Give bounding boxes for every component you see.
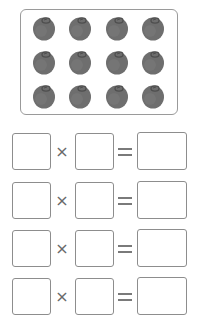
factor1-box[interactable] xyxy=(12,230,51,267)
fruit-icon xyxy=(141,83,165,109)
factor2-box[interactable] xyxy=(75,182,114,219)
fruit-icon xyxy=(141,49,165,75)
times-sign: × xyxy=(55,193,69,209)
times-sign: × xyxy=(55,144,69,160)
fruit-icon xyxy=(105,15,129,41)
factor1-box[interactable] xyxy=(12,182,51,219)
fruit-icon xyxy=(68,49,92,75)
factor2-box[interactable] xyxy=(75,133,114,170)
equals-sign xyxy=(118,293,132,301)
factor2-box[interactable] xyxy=(75,230,114,267)
fruit-icon xyxy=(141,15,165,41)
equals-sign xyxy=(118,148,132,156)
fruit-icon xyxy=(32,15,56,41)
times-sign: × xyxy=(55,289,69,305)
factor1-box[interactable] xyxy=(12,133,51,170)
product-box[interactable] xyxy=(137,277,187,315)
factor2-box[interactable] xyxy=(75,278,114,315)
fruit-icon xyxy=(68,83,92,109)
product-box[interactable] xyxy=(137,181,187,219)
equals-sign xyxy=(118,197,132,205)
fruit-icon xyxy=(105,49,129,75)
fruit-icon xyxy=(68,15,92,41)
times-sign: × xyxy=(55,241,69,257)
fruit-icon xyxy=(105,83,129,109)
fruit-icon xyxy=(32,83,56,109)
fruit-icon xyxy=(32,49,56,75)
factor1-box[interactable] xyxy=(12,278,51,315)
product-box[interactable] xyxy=(137,132,187,170)
equals-sign xyxy=(118,245,132,253)
product-box[interactable] xyxy=(137,229,187,267)
